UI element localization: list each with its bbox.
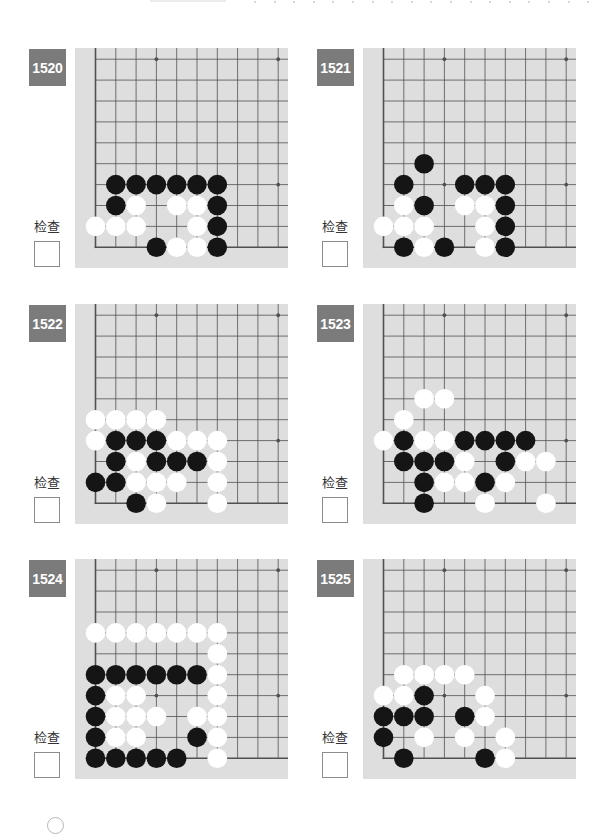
white-stone xyxy=(394,410,414,430)
black-stone xyxy=(414,473,434,493)
white-stone xyxy=(414,238,434,258)
check-box[interactable] xyxy=(322,241,348,267)
black-stone xyxy=(126,494,146,514)
white-stone xyxy=(187,707,207,727)
white-stone xyxy=(475,707,495,727)
white-stone xyxy=(455,452,475,472)
black-stone xyxy=(86,749,106,769)
black-stone xyxy=(496,431,516,451)
white-stone xyxy=(455,473,475,493)
black-stone xyxy=(394,431,414,451)
top-edge-bleed-bar xyxy=(150,0,226,2)
black-stone xyxy=(394,707,414,727)
black-stone xyxy=(86,707,106,727)
black-stone xyxy=(394,749,414,769)
problem-panel-1525: 1525 检查 xyxy=(317,559,579,781)
board-svg xyxy=(75,304,288,524)
white-stone xyxy=(106,707,126,727)
white-stone xyxy=(187,217,207,237)
white-stone xyxy=(414,665,434,685)
white-stone xyxy=(414,217,434,237)
board-svg xyxy=(363,48,576,268)
problem-panel-1524: 1524 检查 xyxy=(29,559,291,781)
white-stone xyxy=(394,217,414,237)
white-stone xyxy=(106,217,126,237)
check-label: 检查 xyxy=(34,219,60,235)
black-stone xyxy=(106,665,126,685)
white-stone xyxy=(86,217,106,237)
white-stone xyxy=(475,196,495,216)
black-stone xyxy=(147,749,167,769)
problem-panel-1520: 1520 检查 xyxy=(29,48,291,270)
white-stone xyxy=(126,196,146,216)
go-board-diagram xyxy=(363,304,576,524)
check-box[interactable] xyxy=(34,241,60,267)
black-stone xyxy=(106,431,126,451)
white-stone xyxy=(475,494,495,514)
problem-number-badge: 1522 xyxy=(29,305,66,342)
go-board-diagram xyxy=(363,559,576,779)
check-box[interactable] xyxy=(34,752,60,778)
black-stone xyxy=(208,175,228,195)
star-point-icon xyxy=(564,439,568,443)
black-stone xyxy=(208,238,228,258)
black-stone xyxy=(475,473,495,493)
white-stone xyxy=(126,623,146,643)
black-stone xyxy=(86,473,106,493)
star-point-icon xyxy=(155,568,159,572)
black-stone xyxy=(414,494,434,514)
board-background xyxy=(75,304,288,524)
white-stone xyxy=(126,410,146,430)
star-point-icon xyxy=(155,694,159,698)
black-stone xyxy=(435,238,455,258)
white-stone xyxy=(536,452,556,472)
problem-number-badge: 1524 xyxy=(29,560,66,597)
white-stone xyxy=(374,686,394,706)
black-stone xyxy=(414,196,434,216)
white-stone xyxy=(126,217,146,237)
white-stone xyxy=(435,665,455,685)
white-stone xyxy=(374,217,394,237)
star-point-icon xyxy=(443,183,447,187)
check-box[interactable] xyxy=(34,497,60,523)
black-stone xyxy=(167,175,187,195)
check-box[interactable] xyxy=(322,752,348,778)
white-stone xyxy=(86,410,106,430)
black-stone xyxy=(455,707,475,727)
black-stone xyxy=(167,749,187,769)
black-stone xyxy=(147,431,167,451)
black-stone xyxy=(435,452,455,472)
star-point-icon xyxy=(564,694,568,698)
white-stone xyxy=(106,410,126,430)
white-stone xyxy=(414,389,434,409)
white-stone xyxy=(208,644,228,664)
go-board-diagram xyxy=(75,48,288,268)
problem-panel-1523: 1523 检查 xyxy=(317,304,579,526)
check-label: 检查 xyxy=(322,730,348,746)
board-background xyxy=(75,48,288,268)
top-edge-bleed-dots xyxy=(254,1,599,3)
problem-panel-1521: 1521 检查 xyxy=(317,48,579,270)
check-box[interactable] xyxy=(322,497,348,523)
star-point-icon xyxy=(276,694,280,698)
go-board-diagram xyxy=(75,559,288,779)
white-stone xyxy=(475,217,495,237)
white-stone xyxy=(394,196,414,216)
black-stone xyxy=(475,749,495,769)
white-stone xyxy=(414,728,434,748)
white-stone xyxy=(167,623,187,643)
black-stone xyxy=(414,452,434,472)
white-stone xyxy=(106,686,126,706)
white-stone xyxy=(187,238,207,258)
white-stone xyxy=(496,473,516,493)
problem-number-badge: 1520 xyxy=(29,49,66,86)
go-board-diagram xyxy=(75,304,288,524)
white-stone xyxy=(208,473,228,493)
white-stone xyxy=(435,473,455,493)
white-stone xyxy=(147,707,167,727)
white-stone xyxy=(167,473,187,493)
white-stone xyxy=(374,431,394,451)
black-stone xyxy=(126,749,146,769)
page-marker-circle-icon xyxy=(47,817,64,834)
board-background xyxy=(363,304,576,524)
